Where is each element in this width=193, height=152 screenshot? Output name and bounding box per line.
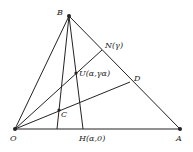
point-U [74,71,77,74]
label-C: C [61,111,67,119]
label-H: H(α,0) [79,135,105,143]
point-A [178,127,182,131]
label-B: B [57,9,63,17]
label-D: D [134,75,140,83]
label-O: O [10,135,17,143]
point-B [67,14,71,18]
segment-OD [15,82,130,129]
label-U: U(α,γα) [79,70,110,78]
point-O [13,127,17,131]
label-N: N(γ) [105,42,123,50]
label-A: A [176,135,182,143]
